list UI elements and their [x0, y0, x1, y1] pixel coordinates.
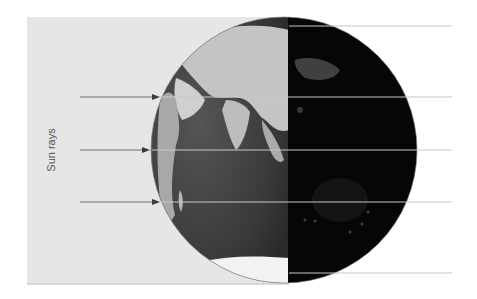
sun-rays-label: Sun rays — [45, 128, 57, 171]
sun-rays-earth-diagram — [0, 0, 477, 299]
night-side — [288, 15, 418, 287]
